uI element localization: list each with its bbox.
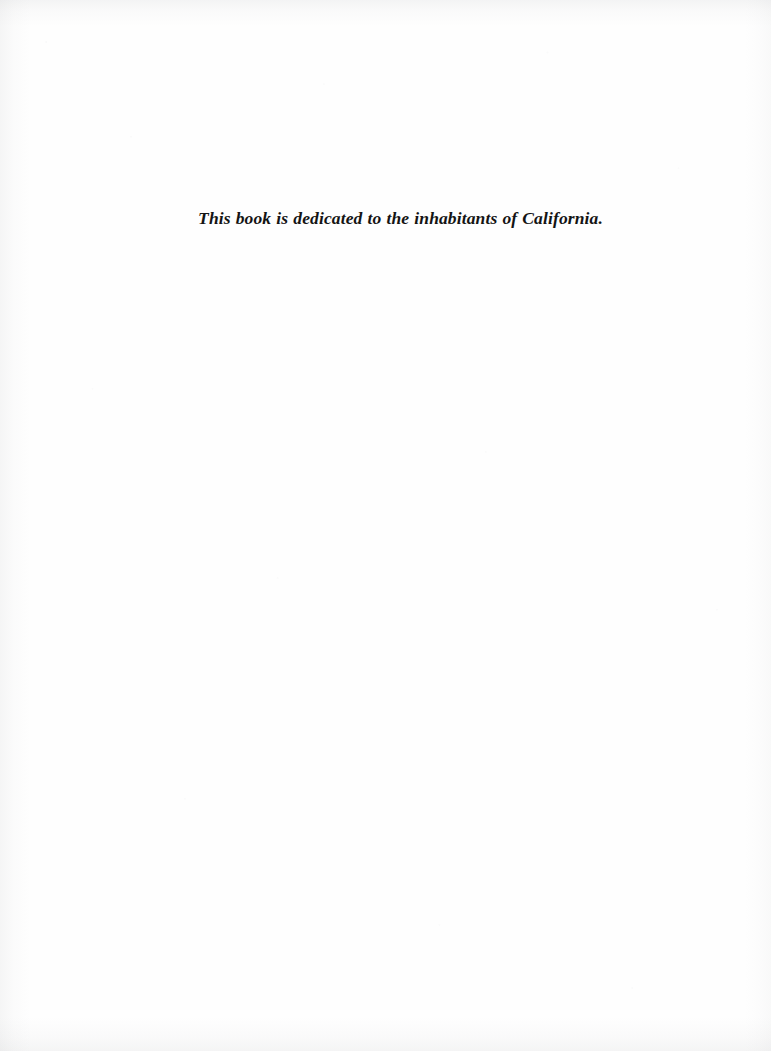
paper-grain-texture [0,0,771,1051]
scan-shadow-top [0,0,771,26]
scan-shadow-left [0,0,30,1051]
dedication-text: This book is dedicated to the inhabitant… [198,206,603,230]
book-page: This book is dedicated to the inhabitant… [0,0,771,1051]
scan-shadow-right [745,0,771,1051]
dedication-block: This book is dedicated to the inhabitant… [0,206,771,230]
scan-shadow-bottom [0,1017,771,1051]
paper-background [0,0,771,1051]
